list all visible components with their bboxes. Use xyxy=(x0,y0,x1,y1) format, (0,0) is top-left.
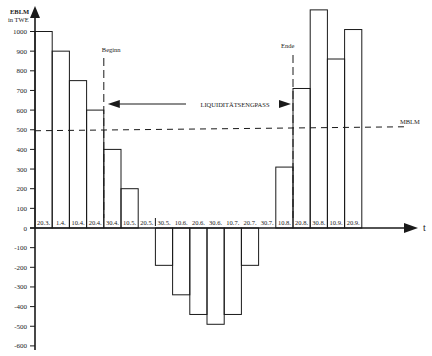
bar xyxy=(104,149,121,228)
category-label: 20.8. xyxy=(295,219,308,226)
y-tick-label: 600 xyxy=(17,107,28,115)
liquidity-chart: 20.3.1.4.10.4.20.4.30.4.10.5.20.5.30.5.1… xyxy=(0,0,432,356)
bar xyxy=(241,228,258,265)
y-tick-label: 700 xyxy=(17,87,28,95)
y-tick-label: 500 xyxy=(17,126,28,134)
category-label: 20.4. xyxy=(89,219,102,226)
y-tick-label: 400 xyxy=(17,146,28,154)
bar xyxy=(327,59,344,228)
y-tick-label: -500 xyxy=(14,323,27,331)
bar xyxy=(173,228,190,295)
bar xyxy=(35,32,52,229)
category-label: 10.7. xyxy=(226,219,239,226)
y-tick-label: -400 xyxy=(14,303,27,311)
bar xyxy=(224,228,241,314)
category-label: 20.5. xyxy=(140,219,153,226)
category-labels: 20.3.1.4.10.4.20.4.30.4.10.5.20.5.30.5.1… xyxy=(37,219,360,226)
category-label: 20.3. xyxy=(37,219,50,226)
category-label: 10.5. xyxy=(123,219,136,226)
arrow-left-icon xyxy=(108,100,120,108)
category-label: 30.7. xyxy=(261,219,274,226)
category-label: 10.6. xyxy=(175,219,188,226)
bars-group xyxy=(35,10,362,324)
span-label: LIQUIDITÄTSENGPASS xyxy=(200,101,269,108)
category-label: 10.8. xyxy=(278,219,291,226)
category-label: 30.8. xyxy=(312,219,325,226)
y-tick-label: 200 xyxy=(17,185,28,193)
category-label: 30.6. xyxy=(209,219,222,226)
mblm-label: MBLM xyxy=(400,118,420,125)
y-tick-label: 300 xyxy=(17,166,28,174)
category-label: 20.6. xyxy=(192,219,205,226)
bar xyxy=(87,110,104,228)
y-tick-label: -200 xyxy=(14,264,27,272)
category-label: 10.4. xyxy=(72,219,85,226)
x-axis-arrow-icon xyxy=(404,223,418,233)
begin-label: Beginn xyxy=(102,46,122,53)
y-axis-ticks: 10009008007006005004003002001000-100-200… xyxy=(13,28,35,350)
y-axis-label-line2: in TWE xyxy=(8,16,29,23)
x-axis-label: t xyxy=(423,222,426,233)
annotations: MBLMBeginnEndeLIQUIDITÄTSENGPASS xyxy=(35,42,420,226)
axes: tEBLMin TWE xyxy=(8,6,426,350)
end-label: Ende xyxy=(281,42,294,49)
bar xyxy=(345,30,362,228)
category-label: 20.7. xyxy=(244,219,257,226)
bar xyxy=(293,88,310,228)
category-label: 10.9. xyxy=(330,219,343,226)
y-tick-label: 900 xyxy=(17,48,28,56)
y-tick-label: -600 xyxy=(14,342,27,350)
y-axis-arrow-icon xyxy=(30,6,40,18)
bar xyxy=(52,51,69,228)
mblm-reference-line xyxy=(35,127,408,131)
bar xyxy=(155,228,172,265)
bar xyxy=(69,81,86,228)
chart-canvas: 20.3.1.4.10.4.20.4.30.4.10.5.20.5.30.5.1… xyxy=(0,0,432,356)
y-tick-label: 0 xyxy=(24,225,28,233)
y-tick-label: 800 xyxy=(17,67,28,75)
y-tick-label: -100 xyxy=(14,244,27,252)
category-label: 30.5. xyxy=(158,219,171,226)
y-axis-label-line1: EBLM xyxy=(10,8,29,15)
category-label: 30.4. xyxy=(106,219,119,226)
y-tick-label: 1000 xyxy=(13,28,28,36)
bar xyxy=(190,228,207,314)
y-tick-label: -300 xyxy=(14,283,27,291)
arrow-right-icon xyxy=(279,100,291,108)
category-label: 1.4. xyxy=(56,219,66,226)
category-label: 20.9. xyxy=(347,219,360,226)
bar xyxy=(310,10,327,228)
bar xyxy=(207,228,224,324)
y-tick-label: 100 xyxy=(17,205,28,213)
